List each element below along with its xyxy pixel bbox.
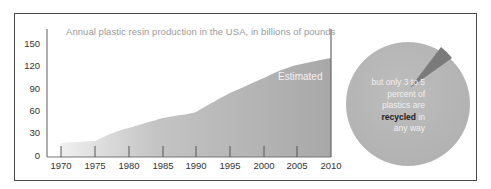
recycled-highlight: recycled bbox=[382, 112, 417, 122]
x-tick-1970: 1970 bbox=[46, 160, 76, 171]
y-tick-0: 0 bbox=[14, 150, 40, 161]
pie-line-5: any way bbox=[350, 123, 425, 135]
y-tick-60: 60 bbox=[14, 105, 40, 116]
pie-line-2: percent of bbox=[350, 89, 425, 101]
y-tick-30: 30 bbox=[14, 127, 40, 138]
pie-line-4: recycled in bbox=[350, 112, 425, 124]
pie-annotation: but only 3 to 5 percent of plastics are … bbox=[350, 77, 425, 135]
pie-line-3: plastics are bbox=[350, 100, 425, 112]
y-tick-90: 90 bbox=[14, 83, 40, 94]
pie-line-1: but only 3 to 5 bbox=[350, 77, 425, 89]
x-tick-1975: 1975 bbox=[80, 160, 110, 171]
estimated-label: Estimated bbox=[278, 71, 322, 82]
x-tick-1990: 1990 bbox=[181, 160, 211, 171]
x-tick-1980: 1980 bbox=[114, 160, 144, 171]
x-tick-2010: 2010 bbox=[316, 160, 346, 171]
y-tick-150: 150 bbox=[14, 38, 40, 49]
chart-title: Annual plastic resin production in the U… bbox=[66, 26, 335, 37]
x-tick-2005: 2005 bbox=[282, 160, 312, 171]
y-tick-120: 120 bbox=[14, 60, 40, 71]
x-tick-2000: 2000 bbox=[249, 160, 279, 171]
x-tick-1985: 1985 bbox=[148, 160, 178, 171]
pie-line-4-rest: in bbox=[416, 112, 425, 122]
x-tick-1995: 1995 bbox=[215, 160, 245, 171]
